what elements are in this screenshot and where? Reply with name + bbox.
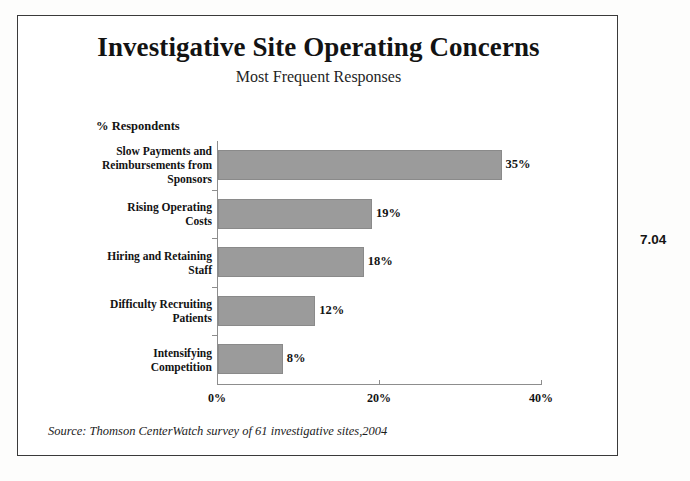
x-axis-tick xyxy=(541,380,542,385)
category-label-rising-operating-costs: Rising Operating Costs xyxy=(52,200,212,228)
category-label-difficulty-recruiting-patients: Difficulty Recruiting Patients xyxy=(52,297,212,325)
category-label-line: Competition xyxy=(52,360,212,374)
bar-value-label: 18% xyxy=(368,254,393,269)
bar xyxy=(218,150,502,180)
category-label-line: Intensifying xyxy=(52,346,212,360)
bar-value-label: 19% xyxy=(376,206,401,221)
category-label-line: Staff xyxy=(52,263,212,277)
y-axis-tick xyxy=(212,335,217,336)
bar xyxy=(218,199,372,229)
plot-area: 35%19%18%12%8% 0%20%40% xyxy=(217,141,541,384)
figure-page: Investigative Site Operating Concerns Mo… xyxy=(0,0,690,481)
category-label-hiring-retaining-staff: Hiring and Retaining Staff xyxy=(52,249,212,277)
x-axis-tick xyxy=(379,380,380,385)
bar-value-label: 8% xyxy=(287,351,306,366)
y-axis-tick xyxy=(212,238,217,239)
category-label-line: Difficulty Recruiting xyxy=(52,297,212,311)
bar-value-label: 35% xyxy=(506,157,531,172)
category-label-slow-payments: Slow Payments and Reimbursements from Sp… xyxy=(52,144,212,186)
axis-unit-label: % Respondents xyxy=(96,119,180,134)
chart-subtitle: Most Frequent Responses xyxy=(18,68,619,86)
category-label-line: Hiring and Retaining xyxy=(52,249,212,263)
bar-value-label: 12% xyxy=(319,303,344,318)
category-label-line: Reimbursements from xyxy=(52,158,212,172)
x-axis-tick-label: 0% xyxy=(208,391,226,406)
category-label-line: Slow Payments and xyxy=(52,144,212,158)
x-axis-tick-label: 20% xyxy=(367,391,391,406)
y-axis-tick xyxy=(212,190,217,191)
bar xyxy=(218,344,283,374)
category-label-line: Sponsors xyxy=(52,172,212,186)
y-axis-tick xyxy=(212,287,217,288)
x-axis-tick-label: 40% xyxy=(529,391,553,406)
category-label-intensifying-competition: Intensifying Competition xyxy=(52,346,212,374)
figure-number: 7.04 xyxy=(640,232,666,247)
source-note: Source: Thomson CenterWatch survey of 61… xyxy=(48,424,387,439)
category-label-line: Rising Operating xyxy=(52,200,212,214)
chart-title: Investigative Site Operating Concerns xyxy=(18,32,619,63)
category-label-line: Patients xyxy=(52,311,212,325)
bar xyxy=(218,296,315,326)
category-label-line: Costs xyxy=(52,214,212,228)
bar xyxy=(218,247,364,277)
figure-frame: Investigative Site Operating Concerns Mo… xyxy=(17,15,618,456)
x-axis-tick xyxy=(217,380,218,385)
